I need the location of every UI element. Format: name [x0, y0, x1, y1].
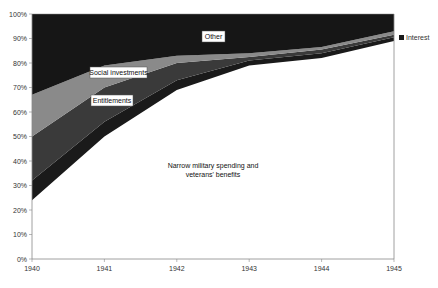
y-tick-label: 10%: [13, 231, 27, 238]
annotation-other: Other: [202, 31, 225, 42]
x-tick-label: 1940: [24, 265, 40, 272]
x-tick-label: 1941: [97, 265, 113, 272]
y-tick-label: 40%: [13, 158, 27, 165]
x-tick-label: 1942: [169, 265, 185, 272]
svg-text:Narrow military spending and: Narrow military spending and: [168, 162, 259, 170]
legend: Interest: [399, 34, 429, 41]
y-tick-label: 100%: [9, 11, 27, 18]
y-tick-label: 60%: [13, 109, 27, 116]
svg-text:Entitlements: Entitlements: [93, 97, 132, 104]
y-tick-label: 0%: [17, 256, 27, 263]
stacked-area-chart: 0%10%20%30%40%50%60%70%80%90%100%1940194…: [0, 0, 438, 288]
y-tick-label: 50%: [13, 133, 27, 140]
y-tick-label: 30%: [13, 182, 27, 189]
y-tick-label: 80%: [13, 60, 27, 67]
annotation-entitlements: Entitlements: [91, 95, 133, 106]
legend-label-interest: Interest: [406, 34, 429, 41]
x-tick-label: 1943: [241, 265, 257, 272]
svg-text:Social investments: Social investments: [89, 69, 148, 76]
y-tick-label: 70%: [13, 84, 27, 91]
y-tick-label: 90%: [13, 35, 27, 42]
annotation-social-investments: Social investments: [89, 67, 148, 78]
x-tick-label: 1945: [386, 265, 402, 272]
svg-text:veterans' benefits: veterans' benefits: [186, 171, 241, 178]
legend-swatch-interest: [399, 35, 404, 40]
plot-areas: [32, 14, 394, 259]
y-tick-label: 20%: [13, 207, 27, 214]
svg-text:Other: Other: [205, 33, 223, 40]
x-tick-label: 1944: [314, 265, 330, 272]
